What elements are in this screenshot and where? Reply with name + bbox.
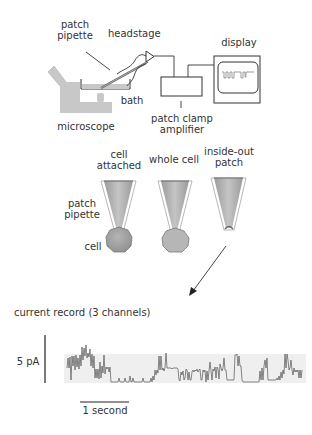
label-microscope: microscope xyxy=(56,121,116,132)
label-config-patch-pipette-l2: pipette xyxy=(62,209,102,220)
time-scale-label: 1 second xyxy=(78,405,132,416)
cable-headstage-amp xyxy=(154,56,174,77)
bath xyxy=(81,79,130,89)
pipette-pointer-line xyxy=(86,52,110,70)
label-amplifier-l1: patch clamp xyxy=(150,113,214,124)
label-headstage: headstage xyxy=(108,28,160,39)
cable-amp-display xyxy=(188,65,214,77)
patch-clamp-diagram xyxy=(0,0,312,435)
label-patch-pipette-l1: patch xyxy=(55,19,95,30)
label-inside-out: inside-out patch xyxy=(200,146,258,168)
patch-clamp-amplifier xyxy=(161,77,202,96)
label-inside-out-l1: inside-out xyxy=(200,146,258,157)
arrow-to-recording xyxy=(189,246,226,296)
label-whole-cell: whole cell xyxy=(148,154,200,165)
label-config-patch-pipette-l1: patch xyxy=(62,198,102,209)
label-cell-attached: cell attached xyxy=(94,149,144,171)
label-inside-out-l2: patch xyxy=(200,157,258,168)
label-patch-pipette-l2: pipette xyxy=(55,30,95,41)
pipette-cell-attached xyxy=(101,181,136,233)
label-patch-pipette: patch pipette xyxy=(55,19,95,41)
label-cell-attached-l1: cell xyxy=(94,149,144,160)
pipette-whole-cell xyxy=(158,181,192,233)
label-cell-attached-l2: attached xyxy=(94,160,144,171)
amplitude-scale-label: 5 pA xyxy=(14,356,42,367)
cell-attached-cell xyxy=(106,227,132,252)
label-bath: bath xyxy=(119,95,145,106)
recording-title: current record (3 channels) xyxy=(14,307,151,318)
label-amplifier: patch clamp amplifier xyxy=(150,113,214,135)
pipette-inside-out xyxy=(211,178,246,230)
label-config-patch-pipette: patch pipette xyxy=(62,198,102,220)
label-amplifier-l2: amplifier xyxy=(150,124,214,135)
label-display: display xyxy=(218,37,260,48)
display-monitor xyxy=(214,56,260,103)
label-cell: cell xyxy=(82,241,104,252)
whole-cell-cell xyxy=(162,228,189,252)
